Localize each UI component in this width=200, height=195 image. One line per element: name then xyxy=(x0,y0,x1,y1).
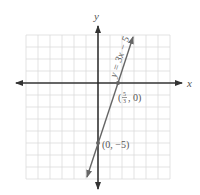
y-axis-label: y xyxy=(93,10,99,22)
equation-label: y = 3x − 5 xyxy=(107,35,131,80)
axes xyxy=(16,26,182,189)
x-intercept-point xyxy=(116,81,120,85)
y-intercept-label: (0, −5) xyxy=(102,139,129,151)
frac-denominator: 3 xyxy=(123,98,126,104)
frac-numerator: 5 xyxy=(123,91,126,97)
paren-open: ( xyxy=(118,92,122,104)
y-intercept-point xyxy=(96,141,100,145)
x-axis-label: x xyxy=(186,77,192,89)
plot-line-lower xyxy=(87,83,118,177)
x-intercept-rest: , 0) xyxy=(128,92,141,104)
graph: x y y = 3x − 5 ( 5 3 , 0) (0, −5) xyxy=(0,0,200,195)
x-intercept-label: ( 5 3 , 0) xyxy=(118,91,141,104)
